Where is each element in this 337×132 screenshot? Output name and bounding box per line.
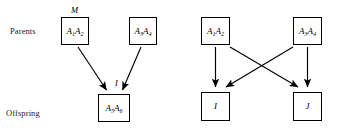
right-child-2-box: J	[293, 92, 322, 121]
right-child-2-label: J	[306, 102, 310, 111]
arrow-mother-to-offspring	[78, 47, 107, 90]
right-parent-1-genotype: A1A2	[207, 27, 224, 36]
arrow-parent1-to-child2	[230, 47, 298, 87]
right-child-1-label: I	[214, 102, 217, 111]
right-parent-2-genotype: A3A4	[299, 27, 316, 36]
right-parent-2-box: A3A4	[293, 17, 322, 45]
arrow-parent2-to-child1	[226, 47, 293, 87]
arrow-father-to-offspring	[123, 47, 142, 90]
arrow-layer	[0, 0, 337, 132]
right-parent-1-box: A1A2	[201, 17, 230, 45]
right-child-1-box: I	[201, 92, 230, 121]
pedigree-figure: Parents Offspring M A1A2 A3A4 I A5A6 A1A	[0, 0, 337, 132]
